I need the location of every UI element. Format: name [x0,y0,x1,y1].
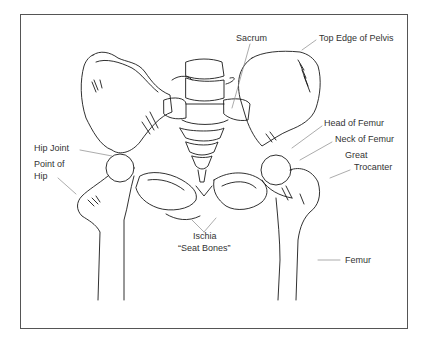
label-sacrum: Sacrum [236,33,267,44]
label-great-trocanter-2: Trocanter [354,162,392,173]
label-seat-bones: “Seat Bones” [178,243,231,254]
pubis-ischia [136,173,267,220]
label-point-of-hip-1: Point of [34,159,65,170]
label-point-of-hip-2: Hip [34,171,48,182]
label-hip-joint: Hip Joint [34,143,69,154]
leader-lines [58,40,350,260]
pelvis-illustration [0,0,425,351]
sacrum-spine [164,59,250,182]
label-head-of-femur: Head of Femur [324,118,384,129]
label-great-trocanter-1: Great [345,150,368,161]
label-femur: Femur [345,255,371,266]
label-ischia: Ischia [193,231,217,242]
label-neck-of-femur: Neck of Femur [335,134,394,145]
right-ilium [239,51,321,146]
right-femur [261,155,320,300]
label-top-edge-of-pelvis: Top Edge of Pelvis [319,33,394,44]
left-femur [78,154,135,300]
left-ilium [81,52,172,153]
